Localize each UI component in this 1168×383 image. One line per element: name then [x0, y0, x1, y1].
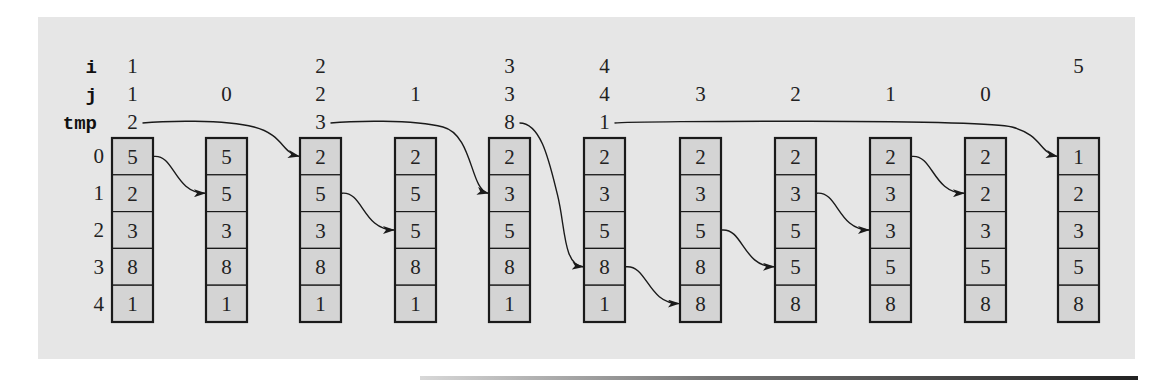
array-cell-value: 2	[980, 145, 991, 169]
arrow-connector	[912, 156, 964, 193]
arrow-connector	[154, 156, 205, 193]
i-value: 2	[315, 54, 326, 78]
j-value: 4	[599, 82, 610, 106]
array-cell-value: 2	[790, 145, 801, 169]
arrow-connector	[722, 230, 774, 267]
array-cell-value: 3	[504, 182, 515, 206]
array-cell-value: 5	[221, 182, 232, 206]
array-cell-value: 5	[695, 219, 706, 243]
row-label-j: j	[86, 85, 97, 107]
array-cell-value: 3	[1073, 219, 1084, 243]
index-label: 0	[94, 144, 105, 168]
i-value: 1	[127, 54, 138, 78]
array-column: 123358	[870, 82, 911, 322]
array-column: 22325381	[300, 54, 341, 322]
j-value: 1	[410, 82, 421, 106]
array-cell-value: 3	[885, 219, 896, 243]
index-label: 4	[94, 292, 105, 316]
array-cell-value: 2	[127, 182, 138, 206]
i-value: 4	[599, 54, 610, 78]
array-cell-value: 5	[885, 255, 896, 279]
tmp-value: 3	[315, 110, 326, 134]
row-label-tmp: tmp	[63, 113, 97, 135]
array-cell-value: 5	[221, 145, 232, 169]
index-label: 1	[94, 181, 105, 205]
array-cell-value: 2	[410, 145, 421, 169]
array-cell-value: 8	[127, 255, 138, 279]
array-cell-value: 2	[315, 145, 326, 169]
array-cell-value: 5	[1073, 255, 1084, 279]
array-column: 223558	[775, 82, 816, 322]
j-value: 3	[695, 82, 706, 106]
array-cell-value: 3	[885, 182, 896, 206]
array-cell-value: 8	[980, 292, 991, 316]
array-cell-value: 5	[504, 219, 515, 243]
arrow-connector	[342, 193, 394, 230]
array-cell-value: 1	[410, 292, 421, 316]
array-columns: 1125238105538122325381125581338235814412…	[112, 54, 1099, 322]
array-column: 11252381	[112, 54, 153, 322]
array-cell-value: 2	[504, 145, 515, 169]
arrow-connector	[626, 267, 679, 304]
array-cell-value: 1	[221, 292, 232, 316]
array-cell-value: 1	[127, 292, 138, 316]
array-column: 512358	[1058, 54, 1099, 322]
array-cell-value: 8	[695, 292, 706, 316]
array-cell-value: 2	[695, 145, 706, 169]
array-cell-value: 2	[1073, 182, 1084, 206]
j-value: 1	[127, 82, 138, 106]
array-cell-value: 2	[599, 145, 610, 169]
j-value: 2	[315, 82, 326, 106]
array-cell-value: 5	[410, 219, 421, 243]
array-cell-value: 8	[315, 255, 326, 279]
array-column: 022358	[965, 82, 1006, 322]
tmp-value: 2	[127, 110, 138, 134]
j-value: 2	[790, 82, 801, 106]
array-cell-value: 3	[599, 182, 610, 206]
j-value: 1	[885, 82, 896, 106]
array-column: 055381	[206, 82, 247, 322]
index-label: 3	[94, 255, 105, 279]
array-column: 323588	[680, 82, 721, 322]
array-cell-value: 5	[599, 219, 610, 243]
i-value: 3	[504, 54, 515, 78]
array-cell-value: 5	[315, 182, 326, 206]
array-cell-value: 8	[221, 255, 232, 279]
arrow-connector	[817, 193, 869, 230]
array-cell-value: 3	[127, 219, 138, 243]
array-cell-value: 5	[790, 219, 801, 243]
array-cell-value: 1	[599, 292, 610, 316]
array-cell-value: 5	[410, 182, 421, 206]
array-column: 44123581	[584, 54, 625, 322]
array-cell-value: 5	[790, 255, 801, 279]
array-cell-value: 1	[315, 292, 326, 316]
row-label-i: i	[86, 57, 97, 79]
array-column: 33823581	[489, 54, 530, 322]
array-cell-value: 8	[504, 255, 515, 279]
array-cell-value: 8	[599, 255, 610, 279]
array-cell-value: 8	[790, 292, 801, 316]
array-cell-value: 1	[1073, 145, 1084, 169]
array-cell-value: 5	[980, 255, 991, 279]
array-cell-value: 3	[695, 182, 706, 206]
index-label: 2	[94, 218, 105, 242]
array-cell-value: 5	[127, 145, 138, 169]
array-cell-value: 1	[504, 292, 515, 316]
array-cell-value: 8	[885, 292, 896, 316]
insertion-sort-diagram: i j tmp 0 1 2 3 4 1125238105538122325381…	[0, 0, 1168, 383]
i-value: 5	[1073, 54, 1084, 78]
array-cell-value: 8	[1073, 292, 1084, 316]
array-cell-value: 8	[410, 255, 421, 279]
j-value: 3	[504, 82, 515, 106]
array-cell-value: 2	[980, 182, 991, 206]
array-cell-value: 3	[980, 219, 991, 243]
j-value: 0	[221, 82, 232, 106]
array-column: 125581	[395, 82, 436, 322]
tmp-value: 1	[599, 110, 610, 134]
array-cell-value: 3	[790, 182, 801, 206]
array-cell-value: 3	[315, 219, 326, 243]
array-cell-value: 8	[695, 255, 706, 279]
array-cell-value: 3	[221, 219, 232, 243]
array-cell-value: 2	[885, 145, 896, 169]
j-value: 0	[980, 82, 991, 106]
